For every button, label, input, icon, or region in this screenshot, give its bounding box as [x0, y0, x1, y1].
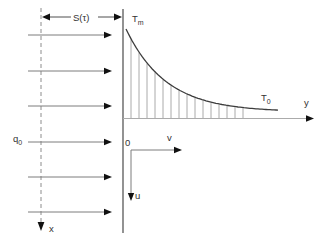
ambient-temperature-label: T0: [261, 92, 271, 105]
heat-flux-label: q0: [13, 133, 22, 146]
heat-flux-arrowhead-icon: [104, 209, 112, 215]
u-arrowhead-icon: [128, 193, 134, 201]
y-axis-arrowhead-icon: [306, 115, 314, 121]
v-velocity-label: v: [167, 132, 172, 143]
u-velocity-label: u: [135, 190, 140, 201]
diagram-canvas: x S(τ) q0 y Tm T0 0 v u: [0, 0, 328, 245]
heat-flux-arrowhead-icon: [104, 174, 112, 180]
melt-temperature-label: Tm: [132, 13, 144, 26]
temperature-profile-hatching: [131, 39, 243, 118]
heat-flux-arrowhead-icon: [104, 139, 112, 145]
heat-flux-arrowhead-icon: [104, 68, 112, 74]
y-axis-label: y: [304, 97, 309, 108]
heat-flux-arrowhead-icon: [104, 103, 112, 109]
melting-diagram-svg: x S(τ) q0 y Tm T0 0 v u: [0, 0, 328, 245]
x-axis-arrowhead-icon: [38, 222, 45, 231]
s-tau-label: S(τ): [73, 12, 89, 23]
heat-flux-arrowhead-icon: [104, 32, 112, 38]
temperature-curve: [126, 29, 278, 110]
s-tau-left-arrowhead-icon: [42, 14, 50, 21]
s-tau-right-arrowhead-icon: [114, 14, 122, 21]
origin-label: 0: [125, 137, 130, 148]
v-arrowhead-icon: [174, 147, 182, 153]
x-axis-label: x: [49, 223, 54, 234]
